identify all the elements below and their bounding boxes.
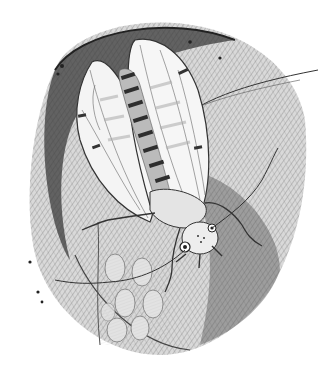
illustration: Pencil illustration of a winged insect w… <box>0 0 326 370</box>
insect-drawing <box>0 0 326 370</box>
egg-cluster <box>100 250 170 345</box>
